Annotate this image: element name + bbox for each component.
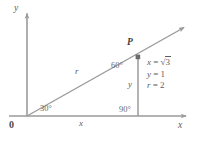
segment-label-y: y (128, 80, 132, 89)
equation-r: r = 2 (147, 80, 171, 92)
angle-90-label: 90° (119, 105, 131, 114)
x-axis-label: x (178, 121, 182, 131)
equals-sign: = (151, 69, 161, 79)
coordinate-values-block: x = √3 y = 1 r = 2 (147, 57, 171, 92)
equation-r-rhs: 2 (160, 80, 165, 90)
angle-60-label: 60° (111, 61, 123, 70)
equation-x-radicand: 3 (165, 56, 171, 67)
point-p-marker (136, 55, 141, 60)
figure-canvas (0, 0, 201, 146)
angle-30-label: 30° (40, 104, 52, 113)
equation-y: y = 1 (147, 69, 171, 81)
trigonometry-figure: y x 0 P 30° 60° 90° r x y x = √3 y = 1 r… (0, 0, 201, 146)
equation-y-rhs: 1 (161, 69, 166, 79)
segment-label-x: x (79, 119, 83, 128)
origin-label: 0 (9, 120, 14, 130)
segment-label-r: r (75, 67, 79, 76)
y-axis-label: y (14, 4, 18, 14)
equation-x: x = √3 (147, 57, 171, 69)
point-p-label: P (127, 38, 133, 48)
equals-sign: = (151, 80, 161, 90)
equals-sign: = (151, 57, 161, 67)
